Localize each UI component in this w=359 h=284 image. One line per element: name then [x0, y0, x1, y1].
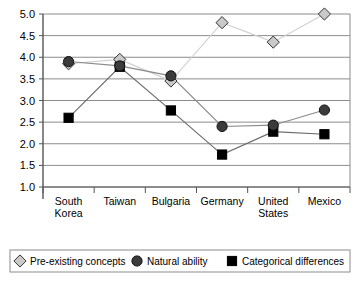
- y-tick-label: 1.5: [20, 159, 35, 171]
- category-label-2: Bulgaria: [152, 195, 191, 207]
- data-point-2-0: [64, 113, 73, 122]
- data-point-2-2: [166, 106, 175, 115]
- line-chart: 5.04.54.03.53.02.52.01.51.0 SouthKoreaTa…: [0, 0, 359, 284]
- data-point-1-1: [115, 61, 125, 71]
- data-point-1-4: [268, 120, 278, 130]
- legend-marker-square: [227, 256, 236, 265]
- chart-background: [0, 0, 359, 284]
- category-label-4: United: [258, 195, 289, 207]
- category-label-3: Germany: [200, 195, 244, 207]
- category-label-0: Korea: [55, 207, 83, 219]
- data-point-1-5: [319, 105, 329, 115]
- chart-container: 5.04.54.03.53.02.52.01.51.0 SouthKoreaTa…: [0, 0, 359, 284]
- category-label-5: Mexico: [308, 195, 341, 207]
- legend-marker-circle: [132, 256, 142, 266]
- legend-label-2: Categorical differences: [242, 256, 344, 267]
- data-point-2-5: [320, 130, 329, 139]
- data-point-1-2: [166, 71, 176, 81]
- legend-label-0: Pre-existing concepts: [30, 256, 126, 267]
- data-point-2-3: [217, 150, 226, 159]
- y-axis-tick-labels: 5.04.54.03.53.02.52.01.51.0: [20, 8, 43, 193]
- y-tick-label: 3.5: [20, 73, 35, 85]
- data-point-1-3: [217, 121, 227, 131]
- y-tick-label: 3.0: [20, 95, 35, 107]
- y-tick-label: 5.0: [20, 8, 35, 20]
- data-point-1-0: [63, 56, 73, 66]
- category-label-4: States: [258, 207, 288, 219]
- y-tick-label: 4.5: [20, 30, 35, 42]
- legend-label-1: Natural ability: [147, 256, 208, 267]
- y-tick-label: 2.5: [20, 116, 35, 128]
- y-tick-label: 1.0: [20, 181, 35, 193]
- category-label-0: South: [55, 195, 83, 207]
- chart-legend: Pre-existing conceptsNatural abilityCate…: [10, 250, 350, 272]
- y-tick-label: 2.0: [20, 138, 35, 150]
- y-tick-label: 4.0: [20, 51, 35, 63]
- category-label-1: Taiwan: [103, 195, 136, 207]
